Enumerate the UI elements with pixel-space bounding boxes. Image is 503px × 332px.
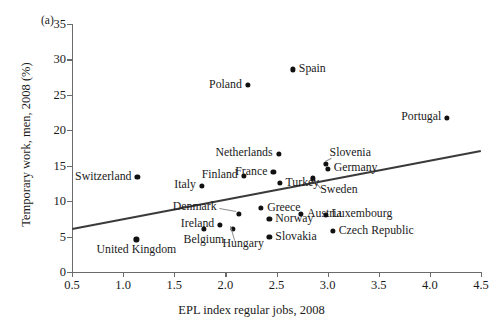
data-point[interactable] (325, 166, 330, 171)
label-leader-line (325, 158, 331, 162)
data-point-label: Spain (299, 63, 326, 75)
label-leader-line (219, 208, 236, 212)
data-point[interactable] (267, 216, 272, 221)
data-point-label: Turkey (286, 177, 320, 189)
data-point-label: Germany (334, 162, 378, 174)
data-point[interactable] (290, 67, 295, 72)
data-point-label: Belgium (184, 234, 225, 246)
data-point-label: Hungary (223, 238, 264, 250)
data-point[interactable] (236, 211, 241, 216)
data-point-label: Portugal (401, 111, 441, 123)
data-point-label: Switzerland (75, 171, 131, 183)
data-point[interactable] (134, 237, 139, 242)
data-point[interactable] (218, 222, 223, 227)
data-point[interactable] (277, 180, 282, 185)
data-point-label: Italy (174, 179, 196, 191)
data-point-label: France (235, 166, 267, 178)
data-point[interactable] (276, 151, 281, 156)
data-point[interactable] (135, 174, 140, 179)
data-point-label: Ireland (181, 218, 214, 230)
data-point-label: Netherlands (216, 147, 273, 159)
data-point[interactable] (245, 82, 250, 87)
data-point-label: Luxembourg (332, 208, 393, 220)
data-point-label: Norway (275, 213, 313, 225)
data-point-label: United Kingdom (97, 244, 177, 256)
plot-area: SpainPolandPortugalNetherlandsSloveniaGe… (0, 0, 503, 332)
data-point[interactable] (259, 206, 264, 211)
scatter-chart-figure: (a) Temporary work, men, 2008 (%) EPL in… (0, 0, 503, 332)
data-point[interactable] (267, 235, 272, 240)
data-point-label: Sweden (320, 184, 357, 196)
data-point-label: Finland (202, 169, 238, 181)
data-point[interactable] (330, 228, 335, 233)
data-point-label: Slovenia (330, 147, 371, 159)
data-point[interactable] (271, 169, 276, 174)
data-point-label: Denmark (173, 201, 217, 213)
data-point[interactable] (199, 183, 204, 188)
data-point[interactable] (445, 115, 450, 120)
data-point-label: Slovakia (275, 231, 316, 243)
data-point[interactable] (201, 226, 206, 231)
data-point-label: Czech Republic (339, 225, 414, 237)
data-point-label: Poland (209, 79, 242, 91)
